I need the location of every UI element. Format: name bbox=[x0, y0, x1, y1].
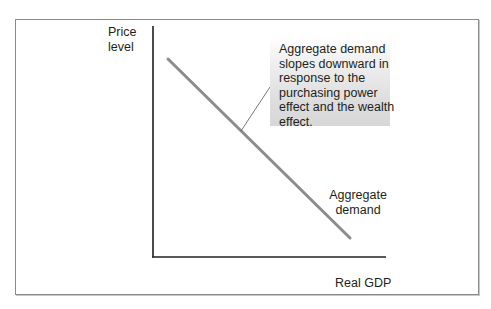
callout-connector bbox=[241, 87, 270, 131]
callout-note: Aggregate demand slopes downward in resp… bbox=[270, 37, 390, 126]
callout-line: slopes downward in bbox=[279, 57, 390, 72]
callout-line: effect and the wealth bbox=[279, 100, 390, 115]
callout-line: Aggregate demand bbox=[279, 42, 390, 57]
y-axis-label-line: level bbox=[108, 40, 136, 55]
callout-line: purchasing power bbox=[279, 86, 390, 101]
y-axis-label: Price level bbox=[108, 25, 136, 55]
x-axis-label: Real GDP bbox=[335, 276, 391, 291]
y-axis-label-line: Price bbox=[108, 25, 136, 40]
callout-line: effect. bbox=[279, 115, 390, 130]
plot-area bbox=[0, 0, 491, 309]
aggregate-demand-label: Aggregate demand bbox=[318, 188, 398, 218]
callout-line: response to the bbox=[279, 71, 390, 86]
curve-label-line: demand bbox=[318, 203, 398, 218]
curve-label-line: Aggregate bbox=[318, 188, 398, 203]
